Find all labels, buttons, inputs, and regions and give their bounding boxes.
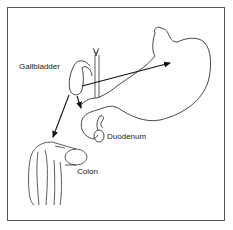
- colon-label: Colon: [77, 168, 98, 176]
- duodenum-label: Duodenum: [107, 133, 146, 141]
- gallbladder-label: Gallbladder: [19, 63, 60, 71]
- arrow-to-colon: [53, 95, 69, 137]
- gallbladder-illustration: [69, 61, 92, 95]
- stomach-illustration: [81, 27, 210, 139]
- bile-duct-illustration: [93, 48, 99, 98]
- anatomy-diagram: [0, 0, 233, 230]
- arrow-to-duodenum: [77, 96, 81, 108]
